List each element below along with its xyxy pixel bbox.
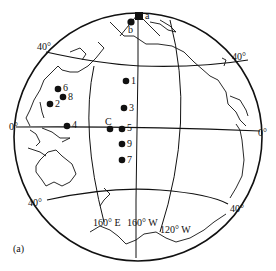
sample-point-1[interactable] xyxy=(123,78,130,85)
label-point-2: 2 xyxy=(55,99,60,109)
label-lat-0-right: 0° xyxy=(258,128,267,138)
label-point-a: a xyxy=(145,11,149,21)
label-lon-160w: 160° W xyxy=(127,218,158,228)
sample-point-a[interactable] xyxy=(135,12,143,20)
sample-point-7[interactable] xyxy=(119,157,126,164)
label-lon-160e: 160° E xyxy=(93,218,121,228)
label-point-9: 9 xyxy=(127,139,132,149)
label-lat-40n-left: 40° xyxy=(37,42,51,52)
label-lat-40n-right: 40° xyxy=(232,52,246,62)
label-point-1: 1 xyxy=(131,76,136,86)
sample-point-8[interactable] xyxy=(60,94,67,101)
label-lat-0-left: 0° xyxy=(9,122,18,132)
sample-point-9[interactable] xyxy=(119,141,126,148)
sample-point-3[interactable] xyxy=(121,105,128,112)
sample-point-6[interactable] xyxy=(55,86,62,93)
figure-caption: (a) xyxy=(13,244,24,254)
label-point-8: 8 xyxy=(68,92,73,102)
meridian-160w-line xyxy=(160,20,181,232)
latitude-40s-line xyxy=(47,189,228,204)
sample-point-2[interactable] xyxy=(47,101,54,108)
label-point-7: 7 xyxy=(127,155,132,165)
sample-point-4[interactable] xyxy=(64,123,71,130)
equator-line xyxy=(16,127,260,131)
label-lon-120w: 120° W xyxy=(160,225,191,235)
label-point-c: C xyxy=(105,117,112,127)
sample-point-5[interactable] xyxy=(119,126,126,133)
meridian-160e-line xyxy=(89,66,104,222)
label-point-3: 3 xyxy=(129,103,134,113)
label-point-5: 5 xyxy=(127,123,132,133)
latitude-40n-line xyxy=(46,52,248,66)
label-point-4: 4 xyxy=(72,120,77,130)
label-point-b: b xyxy=(128,25,133,35)
label-lat-40s-left: 40° xyxy=(28,198,42,208)
label-lat-40s-right: 40° xyxy=(230,204,244,214)
